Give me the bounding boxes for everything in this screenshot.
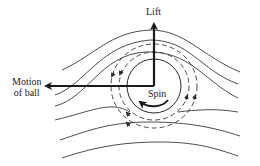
spin-label: Spin xyxy=(148,88,166,99)
streamline-6 xyxy=(62,142,238,158)
lift-label: Lift xyxy=(146,6,161,17)
motion-label-line1: Motion xyxy=(12,76,41,87)
motion-label: Motion of ball xyxy=(12,76,41,98)
streamline-5 xyxy=(60,122,240,140)
motion-label-line2: of ball xyxy=(12,87,41,98)
magnus-effect-diagram: Lift Motion of ball Spin xyxy=(0,0,260,166)
